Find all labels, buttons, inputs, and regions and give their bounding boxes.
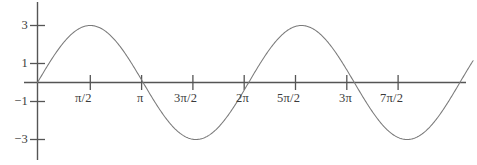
x-tick-label-7pi-over-2: 7π/2 [380, 92, 403, 105]
sine-wave-figure: 3 1 −1 −3 π/2 π 3π/2 2π 5π/2 3π 7π/2 [0, 0, 477, 165]
x-tick-label-2pi: 2π [236, 92, 249, 105]
x-tick-label-3pi-over-2: 3π/2 [174, 92, 197, 105]
x-tick-label-pi-over-2: π/2 [75, 92, 92, 105]
y-tick-label-3: 3 [10, 19, 28, 32]
y-tick-label-1: 1 [10, 57, 28, 70]
x-tick-label-pi: π [137, 92, 144, 105]
x-tick-label-5pi-over-2: 5π/2 [277, 92, 300, 105]
y-tick-label-neg1: −1 [6, 95, 28, 108]
plot-area [0, 0, 477, 165]
x-tick-label-3pi: 3π [339, 92, 352, 105]
y-tick-label-neg3: −3 [6, 133, 28, 146]
